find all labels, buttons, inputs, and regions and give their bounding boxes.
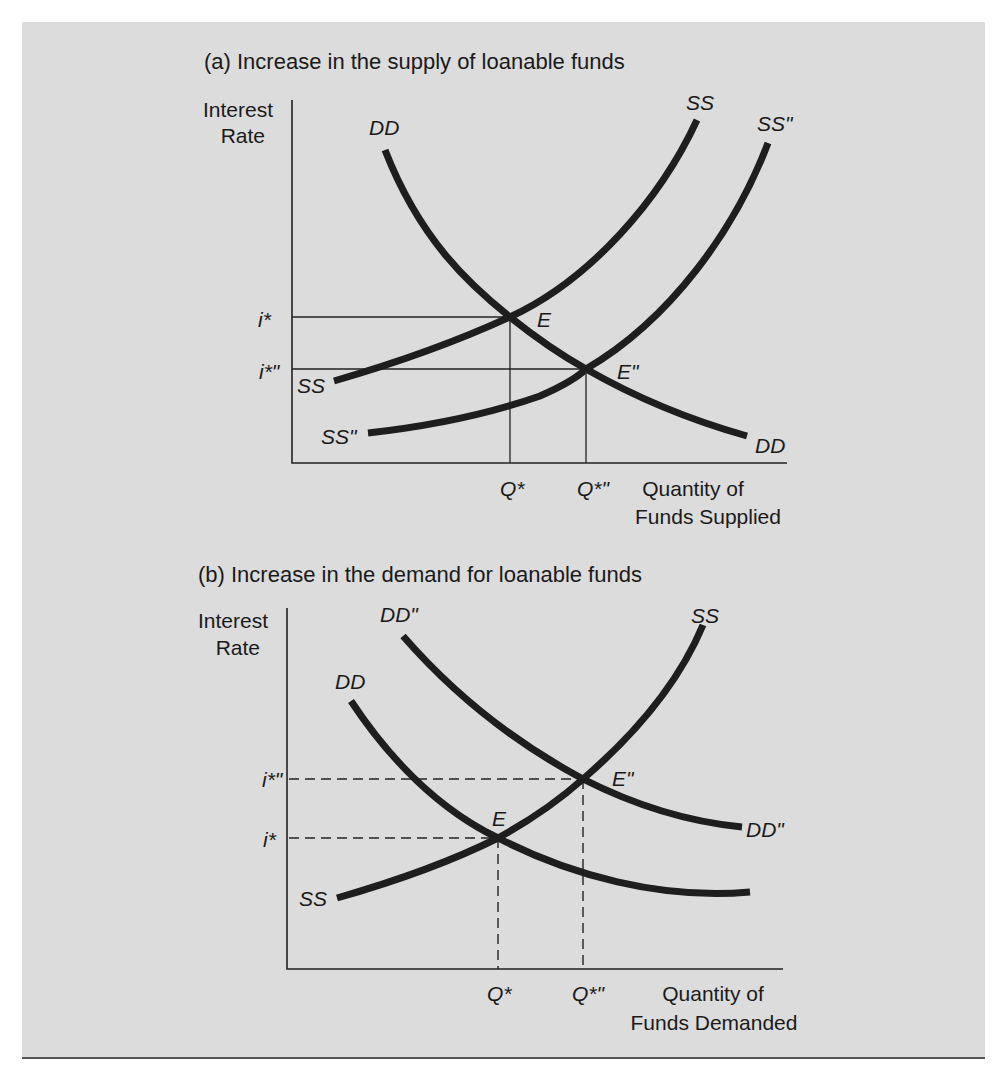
panel-b-y-label-line1: Interest xyxy=(198,609,268,632)
panel-b-x-label-line2: Funds Demanded xyxy=(631,1011,798,1034)
panel-a-tick-q-star: Q* xyxy=(500,477,525,500)
panel-b-ss-left-label: SS xyxy=(299,887,327,910)
panel-b-demand-new-curve xyxy=(403,636,742,827)
panel-b-x-label-line1: Quantity of xyxy=(662,982,764,1005)
panel-a-x-label-line1: Quantity of xyxy=(642,477,744,500)
panel-a-ss-top-label: SS xyxy=(686,91,714,114)
panel-a-ss-left-label: SS xyxy=(297,374,325,397)
panel-b-equilibrium-e: E xyxy=(492,807,507,830)
panel-b-axes xyxy=(287,608,783,969)
panel-b-ddnew-right-label: DD" xyxy=(746,818,785,841)
panel-a-ssnew-left-label: SS" xyxy=(321,425,358,448)
panel-a-x-label-line2: Funds Supplied xyxy=(635,505,781,528)
panel-a-equilibrium-e: E xyxy=(537,308,552,331)
panel-a-tick-i-star-new: i*" xyxy=(259,360,281,383)
panel-a-tick-i-star: i* xyxy=(258,308,272,331)
panel-a-y-label-line1: Interest xyxy=(203,98,273,121)
panel-a-dd-top-label: DD xyxy=(369,116,399,139)
panel-b-title: (b) Increase in the demand for loanable … xyxy=(198,562,642,587)
panel-b-equilibrium-e-new: E" xyxy=(612,767,635,790)
panel-b-tick-q-star-new: Q*" xyxy=(572,982,606,1005)
panel-b-demand-curve xyxy=(351,701,750,893)
panel-a-equilibrium-e-new: E" xyxy=(617,360,640,383)
panel-b-y-label-line2: Rate xyxy=(216,636,260,659)
panel-a-tick-q-star-new: Q*" xyxy=(577,477,611,500)
panel-b-ddnew-top-label: DD" xyxy=(380,603,419,626)
panel-b-tick-i-star: i* xyxy=(263,828,277,851)
panel-a: (a) Increase in the supply of loanable f… xyxy=(203,49,794,528)
panel-a-axes xyxy=(292,100,787,463)
panel-a-ssnew-top-label: SS" xyxy=(757,112,794,135)
panel-a-y-label-line2: Rate xyxy=(221,124,265,147)
panel-a-demand-curve xyxy=(385,150,747,436)
panel-a-supply-new-curve xyxy=(368,143,768,433)
panel-b-tick-q-star: Q* xyxy=(487,982,512,1005)
panel-b-supply-curve xyxy=(337,625,703,898)
panel-a-title: (a) Increase in the supply of loanable f… xyxy=(204,49,625,74)
panel-b-tick-i-star-new: i*" xyxy=(262,768,284,791)
panel-b-dd-top-label: DD xyxy=(335,670,365,693)
panel-a-dd-right-label: DD xyxy=(755,434,785,457)
panel-b: (b) Increase in the demand for loanable … xyxy=(198,562,798,1034)
panel-b-ss-top-label: SS xyxy=(691,604,719,627)
supply-demand-figure: (a) Increase in the supply of loanable f… xyxy=(0,0,998,1071)
